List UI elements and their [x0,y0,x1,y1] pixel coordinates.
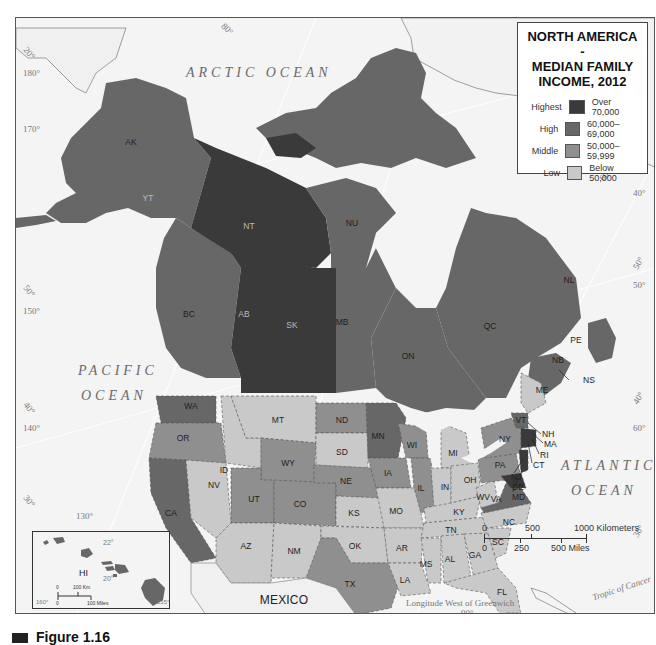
caption-text: Figure 1.16 [36,629,110,645]
legend-row-highest: Highest Over 70,000 [524,97,641,116]
label-nb: NB [552,355,564,365]
label-on: ON [402,351,415,361]
label-ns: NS [583,375,595,385]
scale-mi-500: 500 Miles [551,543,590,553]
legend: NORTH AMERICA - MEDIAN FAMILY INCOME, 20… [517,22,648,174]
label-nu: NU [346,218,358,228]
label-nm: NM [287,546,300,556]
inset-scale-0a: 0 [56,584,59,590]
scale-km-1000: 1000 Kilometers [574,523,639,533]
label-wi: WI [407,440,417,450]
inset-scale-0b: 0 [56,600,59,606]
label-nd: ND [336,415,348,425]
lon-170-label: 170° [23,124,40,134]
label-ia: IA [384,468,392,478]
lon-180-label: 180° [23,68,40,78]
figure-caption: Figure 1.16 [12,629,110,645]
label-nv: NV [208,480,220,490]
label-la: LA [400,575,410,585]
label-ny: NY [499,434,511,444]
label-qc: QC [484,321,497,331]
label-ca: CA [165,508,177,518]
label-nh: NH [542,429,554,439]
legend-row-high: High 60,000–69,000 [524,119,641,138]
label-ak: AK [125,137,136,147]
inset-lon-160: 160° [36,599,48,605]
label-wa: WA [184,401,197,411]
scale-mi-0: 0 [482,543,487,553]
legend-level: Highest [524,102,569,112]
pacific-ocean-label-1: PACIFIC [78,363,158,379]
label-de: DE [512,482,524,492]
scale-mi-250: 250 [514,543,529,553]
lon-40-right-label: 40° [633,188,646,198]
inset-hi-label: HI [79,568,88,578]
label-ct: CT [533,460,544,470]
label-vt: VT [516,415,527,425]
label-nt: NT [243,221,254,231]
label-wv: WV [476,492,490,502]
label-ok: OK [349,541,361,551]
lon-130-label: 130° [76,511,93,521]
label-az: AZ [241,541,252,551]
atlantic-ocean-label-2: OCEAN [571,483,637,499]
lon-110-label: 110° [241,612,258,614]
lon-90-label: 90° [461,608,474,614]
legend-title-line-3: INCOME, 2012 [524,74,641,89]
label-in: IN [441,482,450,492]
region-mi [441,423,471,468]
label-mn: MN [371,431,384,441]
label-me: ME [536,385,549,395]
legend-level: Low [524,168,567,178]
lon-50-right-label: 50° [633,280,646,290]
lon-140-label: 140° [23,423,40,433]
legend-swatch-middle [565,144,580,158]
label-ky: KY [453,507,464,517]
label-id: ID [220,465,229,475]
label-ms: MS [420,559,433,569]
label-co: CO [294,499,307,509]
inset-scale-mi: 100 Miles [87,600,108,606]
legend-title-line-1: NORTH AMERICA - [524,29,641,59]
label-ks: KS [348,508,359,518]
inset-lat-20: 20° [103,575,114,582]
lon-80-label: 80° [506,610,519,614]
label-wy: WY [281,458,295,468]
inset-scale-km: 100 Km [73,584,90,590]
scale-km-500: 500 [525,523,540,533]
label-mb: MB [336,317,349,327]
region-or [149,423,226,463]
label-yt: YT [143,193,154,203]
label-mt: MT [272,415,284,425]
legend-level: High [524,124,565,134]
legend-swatch-low [567,166,582,180]
label-mi: MI [448,448,457,458]
arctic-ocean-label: ARCTIC OCEAN [186,65,332,81]
label-il: IL [417,483,424,493]
legend-range: Over 70,000 [592,97,641,117]
label-ne: NE [340,476,352,486]
longitude-note: Longitude West of Greenwich [406,598,514,608]
legend-swatch-highest [569,100,585,114]
label-nl: NL [564,275,575,285]
legend-range: 50,000–59,999 [587,141,641,161]
label-pa: PA [495,460,506,470]
label-mo: MO [389,506,403,516]
label-fl: FL [497,587,507,597]
scale-line [484,538,587,539]
label-bc: BC [183,309,195,319]
label-or: OR [177,433,190,443]
region-ab-sk [231,253,336,393]
lon-150-label: 150° [23,306,40,316]
region-nj [519,450,528,473]
legend-row-low: Low Below 50,000 [524,163,641,182]
label-ab: AB [238,309,249,319]
caribbean-islands [531,588,576,614]
scale-km-0: 0 [482,523,487,533]
label-ar: AR [396,543,408,553]
mexico-label: MEXICO [260,593,309,607]
label-tx: TX [345,579,356,589]
legend-row-middle: Middle 50,000–59,999 [524,141,641,160]
region-ks [336,496,384,528]
legend-title-line-2: MEDIAN FAMILY [524,59,641,74]
